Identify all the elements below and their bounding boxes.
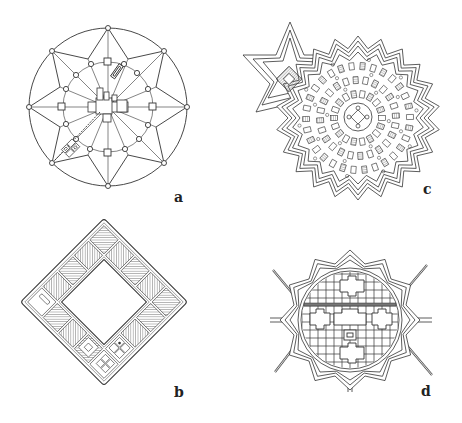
panel-label-c: c [423,182,432,196]
panel-label-a: a [174,190,183,204]
panel-label-b: b [174,385,184,399]
panel-label-d: d [421,384,431,398]
figure-canvas: a b c d [0,0,462,423]
panel-d-bastioned-fort-grid-diagram [0,0,462,423]
